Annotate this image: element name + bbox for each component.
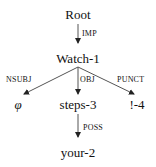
edge-label-punct: PUNCT	[117, 76, 144, 84]
node-root: Root	[65, 8, 90, 21]
edge-label-obj: OBJ	[80, 76, 95, 84]
node-steps: steps-3	[60, 98, 97, 111]
node-phi: φ	[14, 98, 21, 111]
node-punct: !-4	[129, 98, 144, 111]
edge-watch-phi	[24, 67, 78, 94]
edge-label-poss: POSS	[83, 124, 103, 132]
node-your: your-2	[61, 146, 95, 159]
edge-label-imp: IMP	[82, 30, 97, 38]
node-watch: Watch-1	[56, 52, 100, 65]
edge-label-nsubj: NSUBJ	[6, 76, 31, 84]
